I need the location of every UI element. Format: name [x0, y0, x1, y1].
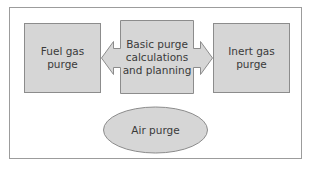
inert-gas-purge-line2: purge	[236, 58, 267, 71]
basic-purge-line2: calculations	[126, 51, 189, 64]
basic-purge-line1: Basic purge	[126, 38, 188, 51]
air-purge-text: Air purge	[131, 124, 179, 137]
fuel-gas-purge-label: Fuel gas purge	[24, 23, 101, 93]
inert-gas-purge-line1: Inert gas	[228, 45, 275, 58]
fuel-gas-purge-line2: purge	[47, 58, 78, 71]
fuel-gas-purge-line1: Fuel gas	[41, 45, 84, 58]
inert-gas-purge-label: Inert gas purge	[213, 23, 290, 93]
basic-purge-line3: and planning	[123, 64, 192, 77]
air-purge-label: Air purge	[103, 107, 208, 153]
basic-purge-label: Basic purge calculations and planning	[118, 20, 196, 94]
